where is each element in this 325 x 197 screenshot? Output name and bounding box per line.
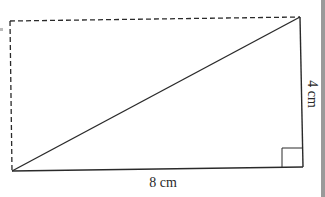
triangle-rectangle-diagram: 8 cm 4 cm [0,0,325,197]
dashed-top-edge [10,17,300,21]
triangle-height [300,17,303,167]
base-label: 8 cm [149,175,177,190]
page-mark [0,28,3,31]
triangle-base [12,167,303,171]
dashed-left-edge [10,21,12,171]
height-label: 4 cm [305,80,320,108]
right-angle-marker [282,148,302,167]
triangle-hypotenuse [12,17,300,171]
page-edge-bar [321,0,325,197]
